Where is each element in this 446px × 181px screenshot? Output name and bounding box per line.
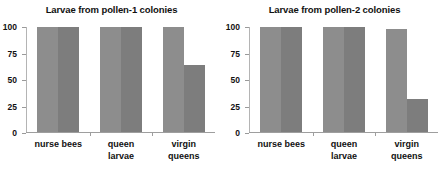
- bar-group: [90, 27, 153, 132]
- bar: [184, 65, 205, 132]
- y-tick-label: 0: [235, 129, 240, 137]
- x-axis-line: [249, 132, 438, 133]
- y-tick-label: 50: [231, 76, 240, 84]
- x-axis-label: virgin queens: [152, 138, 215, 162]
- bar-chart-figure: Larvae from pollen-1 colonies 100 75 50 …: [0, 0, 446, 181]
- x-axis-label: nurse bees: [250, 138, 313, 162]
- bar: [323, 27, 344, 132]
- x-axis-group-tick: [313, 132, 314, 136]
- bar: [260, 27, 281, 132]
- chart-panel-pollen-2: Larvae from pollen-2 colonies 100 75 50 …: [223, 0, 446, 181]
- chart-title: Larvae from pollen-1 colonies: [0, 0, 223, 18]
- x-axis-category-labels: nurse bees queen larvae virgin queens: [27, 138, 215, 162]
- x-axis-label: nurse bees: [27, 138, 90, 162]
- x-axis-group-tick: [152, 132, 153, 136]
- chart-panel-pollen-1: Larvae from pollen-1 colonies 100 75 50 …: [0, 0, 223, 181]
- y-tick-label: 75: [231, 50, 240, 58]
- y-tick-label: 25: [8, 103, 17, 111]
- bar: [407, 99, 428, 132]
- bar-group: [27, 27, 90, 132]
- bar: [163, 27, 184, 132]
- bar-group: [375, 27, 438, 132]
- bars-area: [27, 27, 215, 132]
- x-axis-line: [26, 132, 215, 133]
- bar: [100, 27, 121, 132]
- plot-area: 100 75 50 25 0: [245, 27, 438, 133]
- bar-group: [250, 27, 313, 132]
- bar: [386, 29, 407, 132]
- plot-area: 100 75 50 25 0: [22, 27, 215, 133]
- y-tick-mark: [22, 133, 26, 134]
- x-axis-label: queen larvae: [313, 138, 376, 162]
- bars-area: [250, 27, 438, 132]
- x-axis-label: queen larvae: [90, 138, 153, 162]
- bar: [344, 27, 365, 132]
- x-axis-group-tick: [375, 132, 376, 136]
- bar-group: [313, 27, 376, 132]
- x-axis-category-labels: nurse bees queen larvae virgin queens: [250, 138, 438, 162]
- y-tick-label: 100: [3, 23, 17, 31]
- y-tick-label: 50: [8, 76, 17, 84]
- y-tick-label: 0: [12, 129, 17, 137]
- y-axis-tick-labels: 100 75 50 25 0: [223, 27, 243, 133]
- y-tick-mark: [245, 133, 249, 134]
- bar: [281, 27, 302, 132]
- bar: [58, 27, 79, 132]
- y-tick-label: 100: [226, 23, 240, 31]
- bar-group: [152, 27, 215, 132]
- chart-title: Larvae from pollen-2 colonies: [223, 0, 446, 18]
- y-tick-label: 75: [8, 50, 17, 58]
- x-axis-group-tick: [90, 132, 91, 136]
- bar: [37, 27, 58, 132]
- x-axis-label: virgin queens: [375, 138, 438, 162]
- bar: [121, 27, 142, 132]
- y-tick-label: 25: [231, 103, 240, 111]
- y-axis-tick-labels: 100 75 50 25 0: [0, 27, 20, 133]
